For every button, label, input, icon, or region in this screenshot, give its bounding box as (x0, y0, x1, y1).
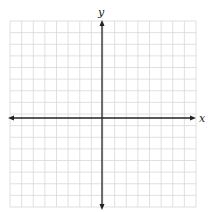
coordinate-plane: x y (0, 0, 208, 212)
grid-lines (10, 21, 196, 207)
y-axis (100, 20, 105, 210)
x-axis-label: x (199, 112, 206, 125)
y-axis-label: y (97, 6, 105, 19)
x-axis-right-arrow-icon (190, 116, 196, 121)
x-axis-left-arrow-icon (8, 116, 14, 121)
